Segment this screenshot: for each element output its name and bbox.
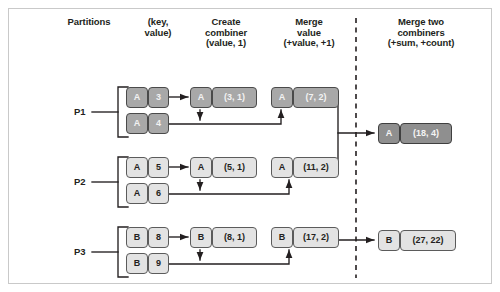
p2-pair2-key: A — [126, 183, 148, 204]
p2-combiner-value: (5, 1) — [212, 157, 257, 178]
header-merge-two-combiners: Merge two combiners (+sum, +count) — [366, 17, 476, 49]
partition-label-p2: P2 — [74, 176, 86, 187]
header-partitions: Partitions — [44, 17, 134, 28]
p1-pair1-key: A — [126, 87, 148, 108]
result-b-value: (27, 22) — [400, 230, 456, 251]
p1-merge-value: (7, 2) — [293, 87, 339, 108]
p1-pair2-key: A — [126, 113, 148, 134]
p3-merge-key: B — [271, 227, 293, 248]
arrow-p1-merge — [169, 110, 281, 124]
p1-combiner-value: (3, 1) — [212, 87, 257, 108]
result-b-key: B — [378, 230, 400, 251]
p3-pair1-key: B — [126, 227, 148, 248]
p1-merge-key: A — [271, 87, 293, 108]
p2-pair1-key: A — [126, 157, 148, 178]
p3-combiner-key: B — [190, 227, 212, 248]
result-a-key: A — [378, 123, 400, 144]
arrow-p3-merge — [169, 250, 289, 264]
p2-pair1-value: 5 — [148, 157, 169, 178]
p1-combiner-key: A — [190, 87, 212, 108]
p2-pair2-value: 6 — [148, 183, 169, 204]
partition-label-p1: P1 — [74, 106, 86, 117]
p1-pair1-value: 3 — [148, 87, 169, 108]
header-create-combiner: Create combiner (value, 1) — [184, 17, 268, 49]
partition-label-p3: P3 — [74, 246, 86, 257]
p2-combiner-key: A — [190, 157, 212, 178]
p3-pair2-key: B — [126, 253, 148, 274]
diagram-canvas: Partitions (key, value) Create combiner … — [0, 0, 500, 292]
p3-combiner-value: (8, 1) — [212, 227, 257, 248]
header-merge-value: Merge value (+value, +1) — [264, 17, 354, 49]
p1-pair2-value: 4 — [148, 113, 169, 134]
p2-merge-value: (11, 2) — [293, 157, 339, 178]
p3-pair1-value: 8 — [148, 227, 169, 248]
p3-pair2-value: 9 — [148, 253, 169, 274]
p2-merge-key: A — [271, 157, 293, 178]
result-a-value: (18, 4) — [400, 123, 452, 144]
arrow-p2-merge — [169, 180, 289, 194]
header-key-value: (key, value) — [123, 17, 193, 38]
p3-merge-value: (17, 2) — [293, 227, 339, 248]
